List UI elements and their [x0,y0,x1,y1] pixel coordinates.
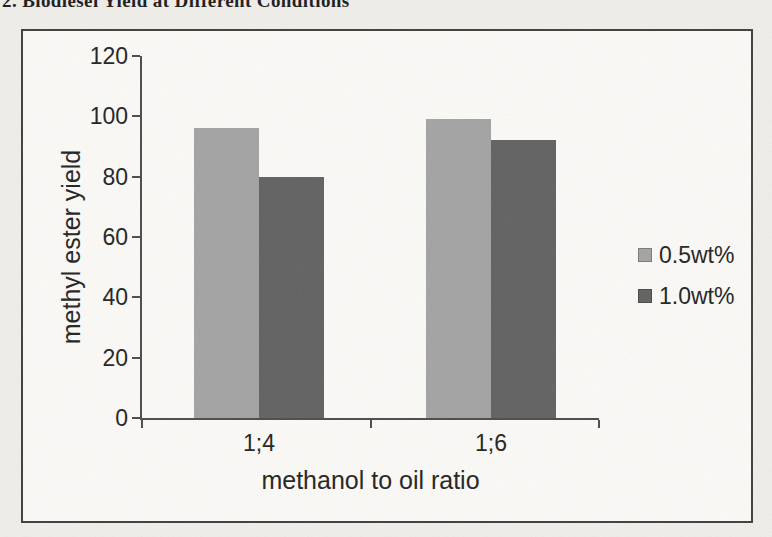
legend-label: 1.0wt% [659,283,734,310]
legend-entry: 1.0wt% [638,283,734,309]
bar-group [194,128,324,418]
y-tick-mark [132,236,140,238]
legend: 0.5wt%1.0wt% [638,242,734,309]
y-tick-label: 0 [58,405,128,431]
chart-frame: methyl ester yield methanol to oil ratio… [21,29,753,523]
y-tick-mark [132,176,140,178]
bar-group [426,119,556,418]
figure-caption: 2. Biodiesel Yield at Different Conditio… [2,0,350,12]
scanned-page: 2. Biodiesel Yield at Different Conditio… [0,0,772,537]
y-tick-mark [132,357,140,359]
y-tick-label: 60 [58,224,128,250]
bar-1-0wt- [491,140,556,418]
plot-area: methanol to oil ratio 0204060801001201;4… [140,56,599,420]
y-tick-label: 40 [58,284,128,310]
x-tick-mark [598,420,600,428]
y-tick-label: 100 [58,103,128,129]
x-tick-mark [141,420,143,428]
y-tick-mark [132,296,140,298]
x-axis-title: methanol to oil ratio [142,466,599,495]
y-tick-label: 80 [58,164,128,190]
legend-label: 0.5wt% [659,242,734,269]
y-tick-mark [132,417,140,419]
y-tick-mark [132,55,140,57]
y-tick-label: 120 [58,43,128,69]
legend-swatch [638,289,652,303]
bar-0-5wt- [194,128,259,418]
bar-1-0wt- [259,177,324,418]
legend-entry: 0.5wt% [638,242,734,268]
x-tick-mark [370,420,372,428]
y-tick-mark [132,115,140,117]
bar-0-5wt- [426,119,491,418]
x-category-label: 1;6 [431,430,551,457]
y-tick-label: 20 [58,345,128,371]
legend-swatch [638,248,652,262]
x-category-label: 1;4 [199,430,319,457]
